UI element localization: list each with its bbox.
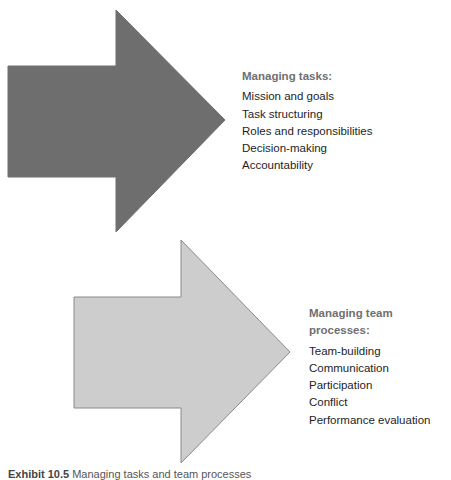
caption-label: Exhibit 10.5	[8, 468, 69, 480]
team-processes-block: Managing team processes: Team-building C…	[309, 305, 451, 429]
tasks-item: Roles and responsibilities	[242, 123, 372, 140]
team-processes-item: Performance evaluation	[309, 412, 451, 429]
tasks-item: Decision-making	[242, 140, 372, 157]
tasks-block: Managing tasks: Mission and goals Task s…	[242, 68, 372, 175]
tasks-item: Accountability	[242, 157, 372, 174]
team-processes-heading: Managing team processes:	[309, 305, 451, 340]
team-processes-arrow	[74, 240, 290, 463]
team-processes-item: Communication	[309, 360, 451, 377]
tasks-item: Task structuring	[242, 106, 372, 123]
team-processes-item: Conflict	[309, 394, 451, 411]
figure-caption: Exhibit 10.5 Managing tasks and team pro…	[8, 468, 251, 480]
tasks-arrow	[8, 10, 225, 232]
tasks-item: Mission and goals	[242, 88, 372, 105]
tasks-heading: Managing tasks:	[242, 68, 372, 85]
team-processes-item: Participation	[309, 377, 451, 394]
team-processes-item: Team-building	[309, 343, 451, 360]
caption-text: Managing tasks and team processes	[72, 468, 251, 480]
